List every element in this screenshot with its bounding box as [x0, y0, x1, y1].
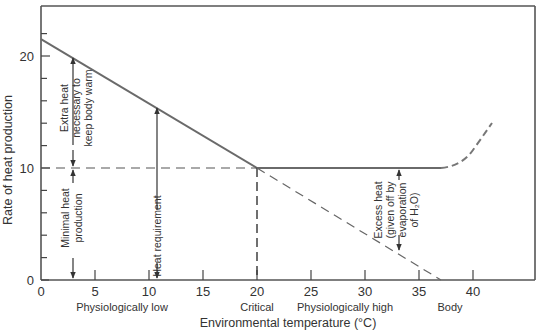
x-tick-10: 10 — [142, 284, 156, 299]
x-tick-15: 15 — [196, 284, 210, 299]
svg-text:necessary to: necessary to — [70, 78, 82, 138]
region-physiologically-low: Physiologically low — [76, 301, 168, 313]
chart-lines — [41, 39, 492, 280]
svg-text:Minimal heat: Minimal heat — [59, 188, 71, 248]
svg-text:of H₂O): of H₂O) — [408, 193, 420, 228]
annotation-extra-heat: Extra heat necessary to keep body warm — [58, 69, 94, 146]
region-critical: Critical — [240, 301, 274, 313]
plot-frame — [41, 6, 535, 280]
y-axis-ticks — [41, 34, 50, 280]
x-tick-5: 5 — [91, 284, 98, 299]
x-tick-35: 35 — [412, 284, 426, 299]
annotation-excess-heat: Excess heat (given off by evaporation of… — [372, 181, 420, 239]
x-tick-labels: 0 5 10 15 20 25 30 35 40 — [37, 284, 480, 299]
x-tick-25: 25 — [304, 284, 318, 299]
heat-production-chart: 0 10 20 0 5 10 15 20 25 30 35 40 Physiol… — [0, 0, 539, 331]
svg-text:keep body warm: keep body warm — [82, 69, 94, 146]
annotation-minimal-heat: Minimal heat production — [59, 188, 84, 248]
svg-text:production: production — [72, 193, 84, 242]
x-tick-30: 30 — [358, 284, 372, 299]
y-tick-0: 0 — [27, 273, 34, 288]
svg-text:(given off by: (given off by — [384, 181, 396, 239]
x-tick-20: 20 — [250, 284, 264, 299]
region-body: Body — [437, 301, 463, 313]
annotation-heat-requirement: Heat requirement — [151, 195, 163, 276]
x-axis-title: Environmental temperature (°C) — [200, 316, 377, 330]
rising-dashed-curve — [441, 123, 492, 168]
svg-text:Extra heat: Extra heat — [58, 84, 70, 132]
svg-text:Heat requirement: Heat requirement — [151, 195, 163, 276]
region-physiologically-high: Physiologically high — [297, 301, 393, 313]
x-tick-40: 40 — [466, 284, 480, 299]
svg-text:evaporation: evaporation — [396, 182, 408, 237]
x-tick-0: 0 — [37, 284, 44, 299]
y-axis-title: Rate of heat production — [1, 95, 15, 225]
y-tick-20: 20 — [20, 49, 34, 64]
svg-text:Excess heat: Excess heat — [372, 181, 384, 238]
y-tick-10: 10 — [20, 161, 34, 176]
